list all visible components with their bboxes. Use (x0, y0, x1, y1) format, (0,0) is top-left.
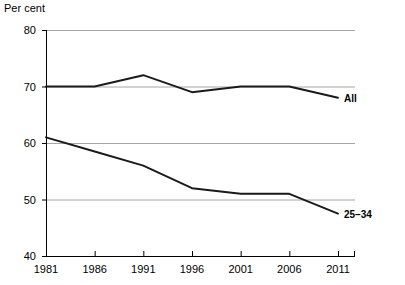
y-tick-label-80: 80 (10, 25, 36, 36)
y-tick-label-70: 70 (10, 82, 36, 93)
x-tick-label-2006: 2006 (266, 264, 312, 275)
x-tick-label-1991: 1991 (120, 264, 166, 275)
series-line-2 (46, 137, 338, 213)
y-tick-label-60: 60 (10, 138, 36, 149)
series-lines (46, 75, 338, 213)
x-tick-label-2011: 2011 (315, 264, 361, 275)
x-tick-label-1986: 1986 (72, 264, 118, 275)
series-label-2: 25–34 (344, 209, 372, 220)
y-tick-label-40: 40 (10, 251, 36, 262)
plot-area (0, 0, 405, 285)
line-chart: Per cent 4050607080 19811986199119962001… (0, 0, 405, 285)
gridlines (46, 31, 355, 257)
x-tick-label-1996: 1996 (169, 264, 215, 275)
y-tick-label-50: 50 (10, 195, 36, 206)
x-tick-label-1981: 1981 (23, 264, 69, 275)
series-label-1: All (344, 93, 357, 104)
x-tick-label-2001: 2001 (218, 264, 264, 275)
